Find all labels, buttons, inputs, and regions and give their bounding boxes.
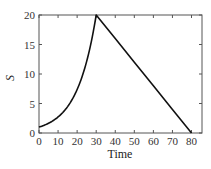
x-tick-label: 50	[129, 135, 141, 147]
y-tick-label: 10	[24, 68, 36, 80]
x-axis-title: Time	[108, 147, 133, 161]
x-tick-label: 30	[91, 135, 103, 147]
y-tick-labels: 05101520	[24, 9, 36, 139]
x-tick-label: 70	[167, 135, 179, 147]
x-tick-labels: 01020304050607080	[36, 135, 197, 147]
line-chart: 01020304050607080 05101520 Time S	[0, 0, 211, 169]
y-tick-label: 20	[24, 9, 36, 21]
y-tick-label: 15	[24, 39, 36, 51]
x-tick-label: 0	[36, 135, 42, 147]
x-tick-label: 10	[53, 135, 65, 147]
x-tick-label: 20	[72, 135, 84, 147]
x-tick-label: 80	[186, 135, 198, 147]
x-tick-label: 60	[148, 135, 160, 147]
y-tick-label: 0	[30, 127, 36, 139]
y-tick-label: 5	[30, 98, 36, 110]
x-tick-label: 40	[110, 135, 122, 147]
y-axis-title: S	[3, 75, 17, 81]
series-line-s	[39, 15, 192, 133]
